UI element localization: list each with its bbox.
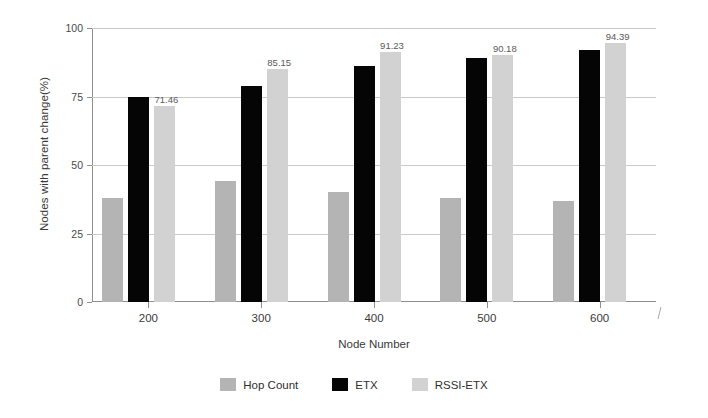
bar-value-label: 94.39 <box>606 31 630 42</box>
x-tick-mark <box>487 302 488 308</box>
bar-group: 94.39600 <box>543 28 656 302</box>
axis-end-tick <box>658 307 662 319</box>
bar-hop-count-600[interactable] <box>553 201 574 302</box>
x-tick-label-200: 200 <box>92 312 205 324</box>
legend-label: ETX <box>355 379 377 391</box>
legend-swatch-icon <box>332 378 348 391</box>
chart-legend: Hop CountETXRSSI-ETX <box>0 378 708 391</box>
bar-etx-200[interactable] <box>128 97 149 303</box>
x-axis-title: Node Number <box>92 338 656 350</box>
legend-item-hop-count[interactable]: Hop Count <box>220 378 298 391</box>
bar-value-label: 90.18 <box>493 43 517 54</box>
legend-label: RSSI-ETX <box>435 379 488 391</box>
bar-etx-600[interactable] <box>579 50 600 302</box>
x-tick-mark <box>600 302 601 308</box>
bar-value-label: 85.15 <box>267 57 291 68</box>
bar-rssi-etx-500[interactable]: 90.18 <box>492 55 513 302</box>
bar-group: 90.18500 <box>430 28 543 302</box>
legend-swatch-icon <box>412 378 428 391</box>
y-tick-label: 100 <box>65 22 83 34</box>
bar-rssi-etx-400[interactable]: 91.23 <box>380 52 401 302</box>
legend-item-rssi-etx[interactable]: RSSI-ETX <box>412 378 488 391</box>
bar-hop-count-200[interactable] <box>102 198 123 302</box>
y-tick-label: 0 <box>77 296 83 308</box>
bar-etx-400[interactable] <box>354 66 375 302</box>
bar-rssi-etx-300[interactable]: 85.15 <box>267 69 288 302</box>
x-tick-mark <box>148 302 149 308</box>
x-tick-label-300: 300 <box>205 312 318 324</box>
bar-hop-count-500[interactable] <box>440 198 461 302</box>
bar-etx-300[interactable] <box>241 86 262 302</box>
bar-value-label: 71.46 <box>155 94 179 105</box>
bar-group-bars: 85.15 <box>205 28 318 302</box>
bar-rssi-etx-600[interactable]: 94.39 <box>605 43 626 302</box>
y-tick-label: 50 <box>71 159 83 171</box>
y-tick-label: 25 <box>71 228 83 240</box>
legend-label: Hop Count <box>243 379 298 391</box>
bar-value-label: 91.23 <box>380 40 404 51</box>
x-tick-label-500: 500 <box>430 312 543 324</box>
bar-hop-count-300[interactable] <box>215 181 236 302</box>
y-tick-mark <box>87 302 92 303</box>
bar-group-bars: 91.23 <box>318 28 431 302</box>
bar-hop-count-400[interactable] <box>328 192 349 302</box>
bar-group: 91.23400 <box>318 28 431 302</box>
y-axis-title: Nodes with parent change(%) <box>38 24 50 284</box>
bar-chart-figure: Nodes with parent change(%) 025507510071… <box>0 0 708 418</box>
bar-group: 71.46200 <box>92 28 205 302</box>
bar-group-bars: 71.46 <box>92 28 205 302</box>
legend-item-etx[interactable]: ETX <box>332 378 377 391</box>
x-tick-label-600: 600 <box>543 312 656 324</box>
bar-group: 85.15300 <box>205 28 318 302</box>
x-tick-mark <box>261 302 262 308</box>
y-tick-label: 75 <box>71 91 83 103</box>
legend-swatch-icon <box>220 378 236 391</box>
x-tick-label-400: 400 <box>318 312 431 324</box>
x-tick-mark <box>374 302 375 308</box>
bar-rssi-etx-200[interactable]: 71.46 <box>154 106 175 302</box>
bar-group-bars: 94.39 <box>543 28 656 302</box>
plot-area: 025507510071.4620085.1530091.2340090.185… <box>92 28 656 302</box>
bar-group-bars: 90.18 <box>430 28 543 302</box>
bar-etx-500[interactable] <box>466 58 487 302</box>
